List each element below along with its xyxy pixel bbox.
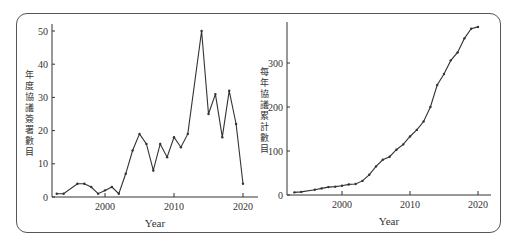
data-point (76, 183, 78, 185)
y-axis-label: 目 (260, 144, 269, 154)
x-tick-label: 2010 (164, 201, 184, 212)
data-point (402, 143, 404, 145)
data-point (138, 133, 140, 135)
data-point (242, 183, 244, 185)
data-point (300, 191, 302, 193)
data-point (187, 133, 189, 135)
data-point (334, 185, 336, 187)
data-point (235, 123, 237, 125)
data-line (57, 31, 243, 194)
data-point (443, 73, 445, 75)
data-point (62, 192, 64, 194)
data-point (159, 143, 161, 145)
data-point (314, 189, 316, 191)
data-point (409, 135, 411, 137)
data-point (145, 143, 147, 145)
y-tick-label: 300 (268, 58, 283, 69)
x-tick-label: 2000 (332, 199, 352, 210)
y-axis-label: 議 (25, 102, 34, 113)
data-point (214, 93, 216, 95)
data-point (450, 59, 452, 61)
data-point (327, 186, 329, 188)
data-point (180, 146, 182, 148)
y-tick-label: 40 (38, 59, 48, 70)
y-axis-label: 議 (260, 99, 269, 110)
data-point (368, 174, 370, 176)
y-tick-label: 0 (278, 190, 283, 201)
x-tick-label: 2010 (400, 199, 420, 210)
data-point (436, 84, 438, 86)
data-point (111, 186, 113, 188)
data-point (348, 183, 350, 185)
data-point (207, 113, 209, 115)
data-point (200, 30, 202, 32)
data-point (221, 136, 223, 138)
y-axis-label: 數 (260, 132, 269, 143)
annual-chart: 01020304050200020102020Year年度協議簽署數目 (25, 24, 259, 229)
y-axis-label: 度 (25, 80, 34, 91)
data-point (166, 156, 168, 158)
y-tick-label: 30 (38, 92, 48, 103)
data-point (361, 180, 363, 182)
chart-canvas: 01020304050200020102020Year年度協議簽署數目01002… (0, 0, 512, 250)
y-axis-label: 目 (25, 147, 34, 157)
data-point (429, 106, 431, 108)
data-point (382, 159, 384, 161)
y-axis-label: 數 (25, 135, 34, 146)
data-point (477, 26, 479, 28)
y-axis-label: 協 (260, 88, 269, 99)
y-axis-label: 署 (25, 125, 34, 135)
data-point (293, 191, 295, 193)
data-point (375, 165, 377, 167)
y-axis-label: 計 (260, 121, 269, 132)
data-point (320, 187, 322, 189)
y-axis-label: 年 (25, 69, 34, 80)
data-line (294, 27, 478, 193)
data-point (228, 90, 230, 92)
data-point (395, 148, 397, 150)
y-axis-label: 每 (260, 66, 269, 77)
data-point (456, 51, 458, 53)
data-point (83, 183, 85, 185)
x-tick-label: 2020 (233, 201, 253, 212)
data-point (422, 120, 424, 122)
y-tick-label: 20 (38, 125, 48, 136)
y-tick-label: 0 (43, 192, 48, 203)
data-point (152, 169, 154, 171)
y-tick-label: 50 (38, 26, 48, 37)
y-axis-label: 協 (25, 91, 34, 102)
x-axis-label: Year (145, 217, 166, 229)
cumulative-chart: 0100200300200020102020Year每年協議累計數目 (260, 22, 492, 227)
x-axis-label: Year (379, 215, 400, 227)
data-point (470, 27, 472, 29)
data-point (388, 156, 390, 158)
data-point (341, 185, 343, 187)
y-axis-label: 簽 (25, 113, 34, 124)
data-point (97, 192, 99, 194)
data-point (131, 149, 133, 151)
data-point (125, 173, 127, 175)
data-point (90, 186, 92, 188)
data-point (354, 183, 356, 185)
y-axis-label: 年 (260, 77, 269, 88)
y-tick-label: 100 (268, 146, 283, 157)
data-point (173, 136, 175, 138)
data-point (118, 192, 120, 194)
data-point (416, 129, 418, 131)
y-tick-label: 200 (268, 102, 283, 113)
data-point (104, 189, 106, 191)
y-tick-label: 10 (38, 158, 48, 169)
data-point (463, 37, 465, 39)
x-tick-label: 2000 (95, 201, 115, 212)
y-axis-label: 累 (260, 111, 269, 121)
data-point (56, 192, 58, 194)
x-tick-label: 2020 (468, 199, 488, 210)
